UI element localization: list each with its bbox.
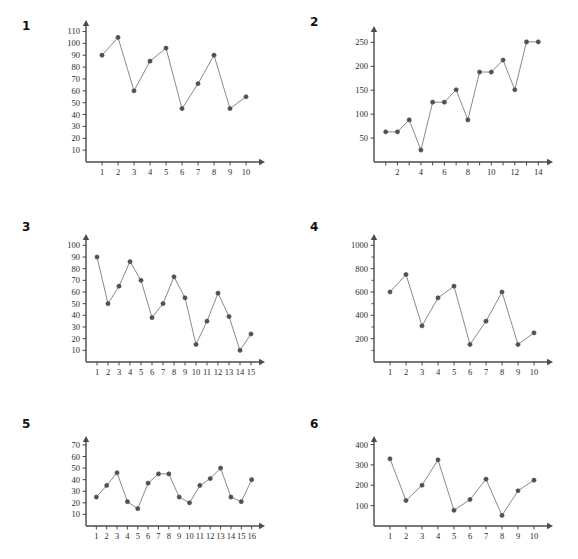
x-tick-label: 14 (236, 367, 245, 377)
data-point-marker (536, 40, 540, 44)
data-point-markers (388, 272, 536, 346)
data-point-marker (238, 348, 242, 352)
y-tick-label: 10 (72, 345, 81, 355)
y-tick-label: 30 (72, 322, 81, 332)
data-point-marker (484, 319, 488, 323)
axes (83, 20, 265, 165)
y-tick-label: 50 (72, 463, 81, 473)
data-point-marker (148, 59, 152, 63)
data-point-marker (452, 284, 456, 288)
x-tick-label: 7 (161, 367, 165, 377)
y-tick-label: 250 (355, 37, 368, 47)
charts-grid: 1102030405060708090100110123456789102501… (0, 0, 578, 559)
x-tick-label: 14 (534, 167, 543, 177)
x-axis-ticks: 2468101214 (386, 162, 544, 177)
y-tick-label: 20 (72, 498, 81, 508)
data-point-marker (228, 107, 232, 111)
y-tick-label: 150 (355, 85, 368, 95)
chart-index-label: 6 (310, 418, 318, 430)
x-tick-label: 4 (436, 367, 441, 377)
x-tick-label: 6 (150, 367, 154, 377)
data-point-marker (180, 107, 184, 111)
line-chart-3: 1020304050607080901001234567891011121314… (56, 228, 268, 392)
y-tick-label: 200 (355, 61, 368, 71)
x-tick-label: 3 (115, 531, 119, 541)
x-axis-ticks: 12345678910 (100, 162, 250, 177)
x-tick-label: 13 (216, 531, 225, 541)
x-axis-ticks: 123456789101112131415 (95, 362, 255, 377)
chart-panel-6: 610020030040012345678910 (289, 400, 578, 559)
data-point-markers (95, 255, 253, 353)
y-tick-label: 110 (68, 26, 80, 36)
data-point-marker (516, 342, 520, 346)
data-point-marker (501, 58, 505, 62)
data-point-marker (395, 130, 399, 134)
chart-index-label: 5 (22, 418, 30, 430)
chart-index-label: 1 (22, 20, 30, 32)
data-point-marker (454, 88, 458, 92)
y-tick-label: 20 (72, 133, 81, 143)
y-tick-label: 30 (72, 121, 81, 131)
data-series-line (390, 459, 534, 516)
data-point-markers (388, 457, 536, 518)
x-tick-label: 15 (237, 531, 246, 541)
y-tick-label: 1000 (351, 240, 368, 250)
y-tick-label: 200 (355, 480, 368, 490)
x-tick-label: 2 (404, 531, 408, 541)
x-tick-label: 6 (468, 367, 472, 377)
data-point-marker (244, 95, 248, 99)
x-tick-label: 3 (132, 167, 136, 177)
data-point-marker (436, 296, 440, 300)
data-series-line (102, 37, 246, 108)
x-tick-label: 4 (436, 531, 441, 541)
data-point-marker (212, 53, 216, 57)
data-point-marker (532, 331, 536, 335)
x-tick-label: 3 (420, 367, 424, 377)
data-point-marker (249, 332, 253, 336)
data-point-marker (167, 472, 171, 476)
x-tick-label: 10 (530, 367, 539, 377)
data-point-marker (139, 278, 143, 282)
data-point-marker (452, 508, 456, 512)
x-tick-label: 1 (388, 531, 392, 541)
x-tick-label: 7 (196, 167, 200, 177)
y-tick-label: 100 (355, 109, 368, 119)
data-point-marker (187, 501, 191, 505)
y-tick-label: 80 (72, 62, 81, 72)
y-tick-label: 60 (72, 287, 81, 297)
x-tick-label: 2 (116, 167, 120, 177)
data-point-marker (105, 483, 109, 487)
x-tick-label: 9 (177, 531, 181, 541)
y-tick-label: 70 (72, 440, 81, 450)
data-point-marker (205, 319, 209, 323)
data-point-marker (150, 316, 154, 320)
x-tick-label: 4 (148, 167, 153, 177)
data-point-markers (100, 35, 248, 110)
y-tick-label: 100 (355, 501, 368, 511)
data-point-marker (216, 291, 220, 295)
data-point-marker (384, 130, 388, 134)
x-tick-label: 6 (146, 531, 150, 541)
data-point-marker (229, 495, 233, 499)
x-tick-label: 7 (484, 367, 488, 377)
data-point-marker (208, 476, 212, 480)
data-point-marker (161, 302, 165, 306)
x-tick-label: 6 (180, 167, 184, 177)
data-point-marker (388, 290, 392, 294)
x-tick-label: 8 (212, 167, 216, 177)
chart-index-label: 3 (22, 221, 30, 233)
line-chart-2: 501001502002502468101214 (344, 20, 556, 192)
x-tick-label: 8 (466, 167, 470, 177)
x-tick-label: 12 (206, 531, 215, 541)
data-point-marker (250, 478, 254, 482)
x-tick-label: 9 (228, 167, 232, 177)
x-tick-label: 1 (95, 367, 99, 377)
data-point-marker (500, 290, 504, 294)
data-point-marker (95, 255, 99, 259)
data-point-marker (146, 481, 150, 485)
chart-panel-4: 4200400600800100012345678910 (289, 205, 578, 400)
y-tick-label: 50 (72, 98, 81, 108)
x-axis-ticks: 12345678910 (388, 362, 538, 377)
line-chart-5: 1020304050607012345678910111213141516 (56, 430, 268, 556)
data-point-marker (516, 489, 520, 493)
